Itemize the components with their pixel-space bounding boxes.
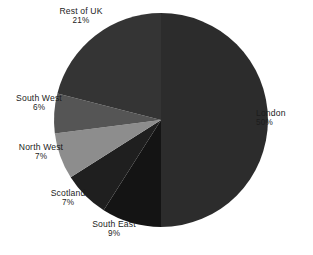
pie-label-london-name: London	[256, 108, 312, 118]
pie-label-north-west: North West 7%	[0, 142, 82, 162]
pie-label-rest-of-uk-percent: 21%	[38, 16, 124, 26]
pie-label-scotland-percent: 7%	[30, 198, 106, 208]
pie-label-london: London 50%	[256, 108, 312, 128]
pie-label-scotland: Scotland 7%	[30, 188, 106, 208]
pie-chart: Rest of UK 21% London 50% South West 6% …	[0, 0, 313, 255]
pie-label-rest-of-uk: Rest of UK 21%	[38, 6, 124, 26]
pie-label-south-east-percent: 9%	[72, 229, 156, 239]
pie-label-london-percent: 50%	[256, 118, 312, 128]
pie-label-south-west-percent: 6%	[0, 103, 78, 113]
pie-label-south-east: South East 9%	[72, 219, 156, 239]
pie-label-north-west-percent: 7%	[0, 152, 82, 162]
pie-label-south-west-name: South West	[0, 93, 78, 103]
pie-label-scotland-name: Scotland	[30, 188, 106, 198]
pie-label-south-west: South West 6%	[0, 93, 78, 113]
pie-label-north-west-name: North West	[0, 142, 82, 152]
pie-slice-london[interactable]	[161, 13, 268, 227]
pie-label-rest-of-uk-name: Rest of UK	[38, 6, 124, 16]
pie-label-south-east-name: South East	[72, 219, 156, 229]
